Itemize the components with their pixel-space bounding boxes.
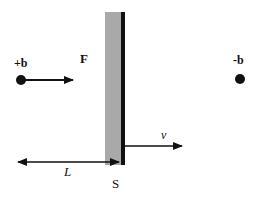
particle-minus-b [235,74,245,84]
label-force: F [80,51,88,67]
plate-edge [121,12,125,165]
label-velocity: v [161,128,166,143]
label-distance: L [64,164,71,180]
label-minus-b: -b [233,53,244,68]
diagram-canvas [0,0,259,197]
plate-body [105,12,122,165]
label-surface: S [112,176,119,192]
label-plus-b: +b [14,56,28,71]
